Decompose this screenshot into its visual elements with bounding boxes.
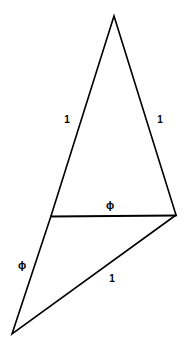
label-lower-left-phi: ϕ [18,260,26,271]
label-upper-right: 1 [157,115,163,125]
label-lower-diagonal: 1 [109,274,115,284]
lower-triangle-path [12,215,176,334]
shared-base-edge [51,216,176,217]
label-base-phi: ϕ [106,200,114,211]
label-upper-left: 1 [64,115,70,125]
figure-canvas [0,0,185,352]
geometry-figure: 1 1 ϕ ϕ 1 [0,0,185,352]
